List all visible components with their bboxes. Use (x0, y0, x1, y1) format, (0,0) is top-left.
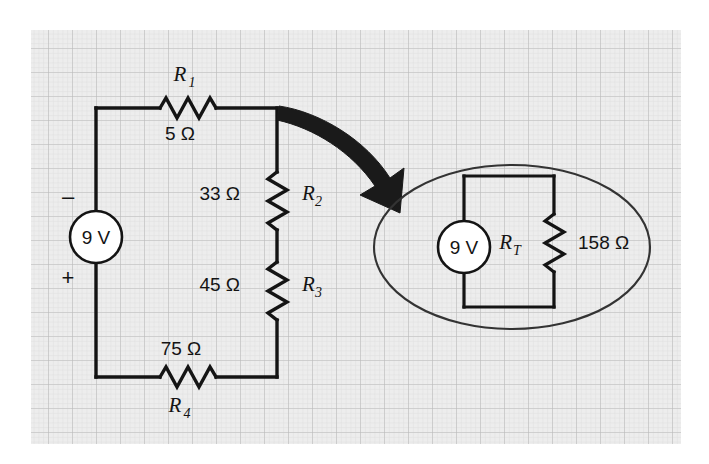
resistor-R2-subscript: 2 (315, 194, 322, 209)
resistor-RT-name: R (498, 230, 512, 254)
polarity-plus-label: + (62, 265, 75, 290)
resistor-R4-name: R (168, 393, 182, 417)
circuit-diagram-svg: 9 V – + R 1 5 Ω 33 Ω R 2 45 Ω R 3 75 Ω R… (0, 0, 709, 464)
resistor-R1-name: R (173, 62, 187, 86)
voltage-source-value: 9 V (82, 227, 111, 248)
resistor-R3-name: R (301, 272, 315, 296)
resistor-RT-subscript: T (513, 243, 522, 258)
resistor-RT-value: 158 Ω (578, 232, 629, 253)
resistor-R2-name: R (301, 181, 315, 205)
resistor-R2-value: 33 Ω (199, 183, 240, 204)
resistor-R1-value: 5 Ω (165, 123, 195, 144)
resistor-R1-subscript: 1 (189, 75, 196, 90)
resistor-R3-value: 45 Ω (199, 274, 240, 295)
resistor-R4-subscript: 4 (184, 406, 191, 421)
polarity-minus-label: – (62, 184, 75, 209)
circuit-figure: 9 V – + R 1 5 Ω 33 Ω R 2 45 Ω R 3 75 Ω R… (0, 0, 709, 464)
resistor-R3-subscript: 3 (314, 285, 322, 300)
eq-voltage-source-value: 9 V (450, 237, 479, 258)
resistor-R4-value: 75 Ω (161, 338, 202, 359)
